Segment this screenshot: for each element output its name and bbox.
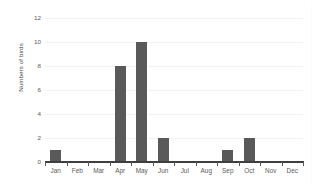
gridline	[45, 138, 303, 139]
x-axis-tick-label-oct: Oct	[244, 168, 254, 174]
x-axis-tick-mark	[303, 162, 304, 166]
gridline	[45, 42, 303, 43]
y-axis-tick-label: 12	[34, 15, 41, 21]
x-axis-tick-label-dec: Dec	[287, 168, 298, 174]
plot-area: 121086420	[45, 18, 303, 162]
x-axis-tick-label-aug: Aug	[201, 168, 212, 174]
y-axis-tick-label: 2	[38, 135, 41, 141]
x-axis-tick-mark	[239, 162, 240, 166]
x-axis-tick-label-nov: Nov	[265, 168, 276, 174]
x-axis-tick-label-may: May	[136, 168, 148, 174]
x-axis-tick-mark	[282, 162, 283, 166]
x-axis-tick-mark	[88, 162, 89, 166]
y-axis-tick-label: 0	[38, 159, 41, 165]
x-axis-tick-label-feb: Feb	[72, 168, 83, 174]
x-axis-tick-label-jul: Jul	[181, 168, 189, 174]
x-axis-tick-label-jan: Jan	[51, 168, 61, 174]
gridline	[45, 18, 303, 19]
gridline	[45, 90, 303, 91]
bar-jun	[158, 138, 169, 162]
x-axis-tick-label-mar: Mar	[93, 168, 104, 174]
y-axis-tick-label: 4	[38, 111, 41, 117]
x-axis-tick-mark	[217, 162, 218, 166]
bar-may	[136, 42, 147, 162]
gridline	[45, 66, 303, 67]
bar-chart-figure: Numbers of birds 121086420 JanFebMarAprM…	[0, 0, 329, 189]
x-axis-tick-mark	[260, 162, 261, 166]
x-axis-tick-mark	[110, 162, 111, 166]
y-axis-tick-label: 10	[34, 39, 41, 45]
x-axis-tick-label-jun: Jun	[158, 168, 168, 174]
x-axis-tick-label-apr: Apr	[115, 168, 125, 174]
x-axis-tick-label-sep: Sep	[222, 168, 233, 174]
x-axis-tick-mark	[131, 162, 132, 166]
x-axis-tick-mark	[174, 162, 175, 166]
y-axis-tick-label: 6	[38, 87, 41, 93]
gridline	[45, 114, 303, 115]
y-axis-tick-label: 8	[38, 63, 41, 69]
x-axis-tick-mark	[67, 162, 68, 166]
x-axis-tick-mark	[45, 162, 46, 166]
x-axis-tick-mark	[153, 162, 154, 166]
x-axis-tick-mark	[196, 162, 197, 166]
bar-oct	[244, 138, 255, 162]
y-axis-title: Numbers of birds	[17, 22, 24, 114]
bar-apr	[115, 66, 126, 162]
